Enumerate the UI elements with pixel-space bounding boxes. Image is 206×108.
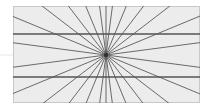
illusion-canvas [0,0,206,108]
center-point [104,53,108,57]
hering-illusion-figure [0,0,206,108]
